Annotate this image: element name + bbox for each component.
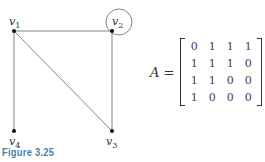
matrix-cell: 1 xyxy=(239,38,257,55)
matrix-cell: 0 xyxy=(203,89,221,106)
label-v3: v3 xyxy=(106,135,117,150)
label-v2: v2 xyxy=(112,15,123,30)
matrix-cell: 1 xyxy=(221,55,239,72)
figure-caption: Figure 3.25 xyxy=(2,146,54,158)
vertex-v4 xyxy=(12,129,16,133)
matrix-row: 1 1 1 0 xyxy=(185,55,257,72)
vertex-v2 xyxy=(110,29,114,33)
matrix-cell: 1 xyxy=(185,89,203,106)
matrix-cell: 0 xyxy=(239,72,257,89)
edge-v1-v3 xyxy=(14,31,112,131)
matrix-name: A xyxy=(150,65,159,80)
matrix-cell: 1 xyxy=(185,55,203,72)
matrix-cell: 1 xyxy=(221,38,239,55)
matrix-row: 1 1 0 0 xyxy=(185,72,257,89)
matrix-table: 0 1 1 1 1 1 1 0 1 1 0 0 1 0 0 0 xyxy=(185,38,257,106)
matrix-cell: 1 xyxy=(185,72,203,89)
adjacency-matrix: A = 0 1 1 1 1 1 1 0 1 1 0 0 1 xyxy=(150,38,262,106)
equals-sign: = xyxy=(163,65,174,80)
matrix-cell: 1 xyxy=(203,72,221,89)
matrix-cell: 1 xyxy=(203,38,221,55)
matrix-cell: 0 xyxy=(221,72,239,89)
matrix-row: 1 0 0 0 xyxy=(185,89,257,106)
label-v1: v1 xyxy=(9,15,20,30)
matrix-brackets: 0 1 1 1 1 1 1 0 1 1 0 0 1 0 0 0 xyxy=(180,38,262,106)
matrix-cell: 0 xyxy=(221,89,239,106)
matrix-cell: 0 xyxy=(239,89,257,106)
matrix-cell: 0 xyxy=(185,38,203,55)
matrix-cell: 0 xyxy=(239,55,257,72)
matrix-cell: 1 xyxy=(203,55,221,72)
vertex-v3 xyxy=(110,129,114,133)
matrix-row: 0 1 1 1 xyxy=(185,38,257,55)
